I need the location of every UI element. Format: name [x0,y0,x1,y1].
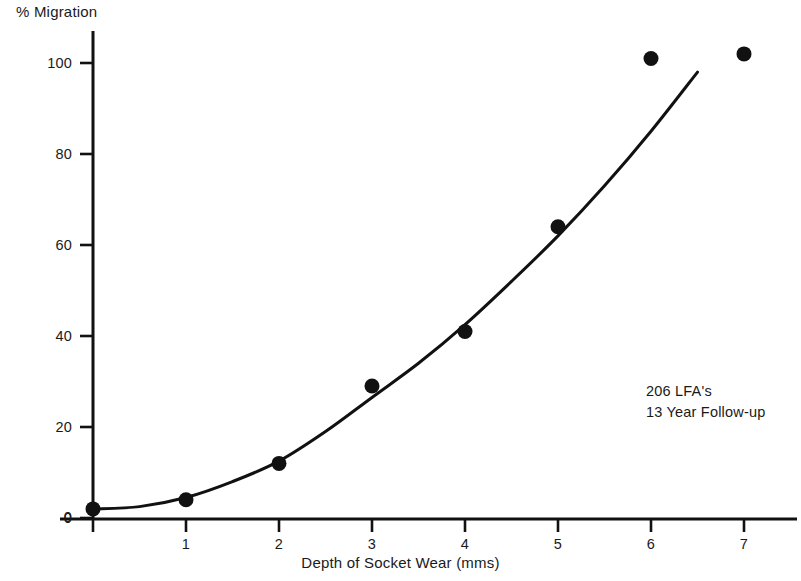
x-tick-label-7: 7 [740,536,748,552]
x-axis-title: Depth of Socket Wear (mms) [0,554,801,571]
fitted-curve [93,72,698,509]
annotation-line-2: 13 Year Follow-up [646,402,765,423]
y-tick-label-40: 40 [55,328,72,344]
data-point [644,51,659,66]
x-tick-label-2: 2 [275,536,283,552]
y-tick-label-80: 80 [55,146,72,162]
y-tick-label-100: 100 [47,55,72,71]
data-point-group [86,46,752,516]
x-tick-label-4: 4 [461,536,469,552]
x-tick-label-6: 6 [647,536,655,552]
y-tick-label-60: 60 [55,237,72,253]
y-axis-ticks [80,63,93,518]
x-tick-label-0: 0 [64,509,72,525]
chart-annotation: 206 LFA's 13 Year Follow-up [646,381,765,423]
data-point [272,456,287,471]
chart-figure: % Migration 020406080100 01234567 [0,0,801,581]
data-point [737,46,752,61]
x-tick-label-5: 5 [554,536,562,552]
data-point [365,379,380,394]
data-point [458,324,473,339]
x-axis-ticks [93,519,744,532]
data-point [86,501,101,516]
data-point [551,219,566,234]
x-tick-label-3: 3 [368,536,376,552]
x-tick-label-1: 1 [182,536,190,552]
chart-canvas [0,0,801,581]
y-tick-label-20: 20 [55,419,72,435]
data-point [179,492,194,507]
axis-lines [60,31,797,519]
annotation-line-1: 206 LFA's [646,381,765,402]
